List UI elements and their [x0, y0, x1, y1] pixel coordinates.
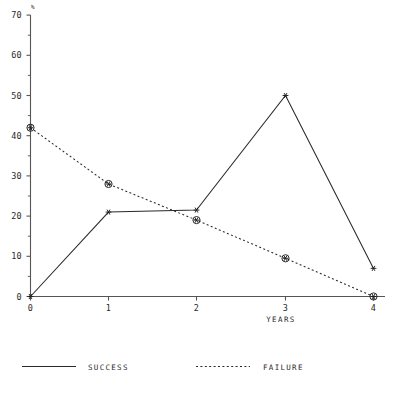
legend-item-failure: FAILURE [196, 363, 304, 372]
x-tick-label-0: 0 [28, 303, 33, 313]
y-tick-label-10: 10 [11, 251, 22, 261]
legend-item-success: SUCCESS [22, 363, 129, 372]
line-chart: 0 10 20 30 40 50 60 70 % 0 1 2 3 4 YEARS [0, 0, 396, 402]
y-tick-label-0: 0 [17, 292, 22, 302]
failure-markers [27, 124, 377, 300]
success-point-4 [371, 266, 377, 271]
x-tick-label-3: 3 [283, 303, 288, 313]
y-axis: 0 10 20 30 40 50 60 70 % [11, 3, 35, 302]
x-axis-title: YEARS [266, 315, 296, 324]
x-tick-label-2: 2 [194, 303, 199, 313]
failure-line [31, 128, 374, 297]
success-markers [28, 93, 377, 299]
y-tick-label-70: 70 [11, 10, 22, 20]
x-axis: 0 1 2 3 4 YEARS [28, 297, 385, 325]
series-success [28, 93, 377, 299]
series-failure [27, 124, 377, 300]
y-tick-label-20: 20 [11, 211, 22, 221]
success-point-3 [283, 93, 289, 98]
chart-legend: SUCCESS FAILURE [22, 363, 304, 372]
y-axis-unit-label: % [31, 3, 35, 10]
failure-point-1 [105, 180, 112, 187]
x-tick-label-1: 1 [106, 303, 111, 313]
y-tick-label-60: 60 [11, 50, 22, 60]
y-tick-label-40: 40 [11, 131, 22, 141]
chart-container: 0 10 20 30 40 50 60 70 % 0 1 2 3 4 YEARS [0, 0, 396, 402]
success-point-2 [194, 208, 200, 213]
legend-label-failure: FAILURE [263, 363, 304, 372]
failure-point-3 [282, 255, 289, 262]
failure-point-2 [193, 217, 200, 224]
success-line [31, 96, 374, 297]
y-tick-label-30: 30 [11, 171, 22, 181]
legend-label-success: SUCCESS [88, 363, 129, 372]
y-tick-label-50: 50 [11, 91, 22, 101]
x-tick-label-4: 4 [371, 303, 376, 313]
